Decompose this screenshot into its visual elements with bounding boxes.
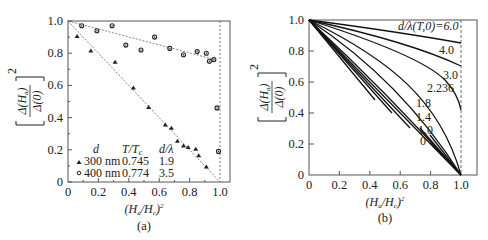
- curve-label-6.0: d/λ(T,0)=6.0: [398, 19, 458, 33]
- a-ytick-5: 1.0: [47, 14, 63, 28]
- fit-line-400nm: [68, 21, 215, 60]
- series-400nm-marker-centers: [81, 25, 219, 152]
- a-ytick-3: 0.6: [47, 78, 63, 92]
- b-xtick-3: 0.6: [392, 178, 408, 192]
- b-ytick-5: 1.0: [288, 13, 304, 27]
- a-ytick-0: 0: [57, 175, 63, 189]
- curve-label-4.0: 4.0: [439, 43, 454, 57]
- a-ytick-1: 0.2: [47, 143, 63, 157]
- b-xtick-0: 0: [306, 178, 312, 192]
- a-xtick-0: 0: [65, 185, 71, 199]
- legend-circle-marker: [77, 171, 81, 175]
- plot-b-ylabel: Δ(Ha) Δ(0) 2: [247, 64, 286, 121]
- panel-a: 0 0.2 0.4 0.6 0.8 1.0 0 0.2 0.4 0.6 0.8 …: [5, 14, 230, 233]
- svg-text:Δ(0): Δ(0): [272, 86, 286, 108]
- a-xtick-4: 0.8: [182, 185, 198, 199]
- curve-label-1.4: 1.4: [416, 110, 431, 124]
- b-xtick-5: 1.0: [453, 178, 469, 192]
- plot-a-y-ticks: [68, 21, 72, 182]
- b-ytick-1: 0.2: [288, 137, 304, 151]
- svg-text:2: 2: [247, 64, 261, 70]
- plot-a-legend: d T/Tc d/λ 300 nm 0.745 1.9 400 nm 0.774…: [77, 142, 175, 180]
- svg-text:Δ(Ha): Δ(Ha): [15, 87, 30, 115]
- curve-label-1.8: 1.8: [416, 96, 431, 110]
- svg-text:Δ(0): Δ(0): [30, 90, 44, 112]
- b-xtick-1: 0.2: [332, 178, 348, 192]
- a-xtick-3: 0.6: [151, 185, 167, 199]
- curve-label-0: 0: [420, 134, 426, 148]
- b-xtick-4: 0.8: [423, 178, 439, 192]
- legend-row2-dl: 3.5: [159, 166, 174, 180]
- series-400nm-markers: [80, 24, 221, 154]
- plot-b-x-ticks: [339, 171, 430, 175]
- b-ytick-4: 0.8: [288, 44, 304, 58]
- a-ytick-4: 0.8: [47, 46, 63, 60]
- b-xtick-2: 0.4: [362, 178, 378, 192]
- legend-triangle-marker: [77, 160, 82, 164]
- svg-text:2: 2: [5, 68, 19, 74]
- svg-text:Δ(Ha): Δ(Ha): [257, 83, 272, 111]
- figure: 0 0.2 0.4 0.6 0.8 1.0 0 0.2 0.4 0.6 0.8 …: [0, 0, 488, 240]
- plot-b-y-ticks: [309, 51, 314, 144]
- plot-a-xlabel: (Ha/Hc)2: [125, 202, 164, 217]
- curve-label-3.0: 3.0: [443, 68, 458, 82]
- plot-a-caption: (a): [137, 219, 151, 233]
- a-xtick-1: 0.2: [91, 185, 107, 199]
- legend-row2-d: 400 nm: [84, 166, 121, 180]
- plot-b-xlabel: (Ha/Hc)2: [366, 195, 405, 210]
- a-xtick-2: 0.4: [121, 185, 137, 199]
- legend-row2-t: 0.774: [122, 166, 149, 180]
- a-ytick-2: 0.4: [47, 111, 63, 125]
- plot-b-caption: (b): [378, 211, 393, 225]
- a-xtick-5: 1.0: [212, 185, 228, 199]
- plot-a-ylabel: Δ(Ha) Δ(0) 2: [5, 68, 44, 125]
- b-ytick-2: 0.4: [288, 106, 304, 120]
- curve-label-2.236: 2.236: [427, 81, 454, 95]
- b-ytick-0: 0: [298, 168, 304, 182]
- b-ytick-3: 0.6: [288, 75, 304, 89]
- panel-b: 0 0.2 0.4 0.6 0.8 1.0 0 0.2 0.4 0.6 0.8 …: [247, 13, 477, 225]
